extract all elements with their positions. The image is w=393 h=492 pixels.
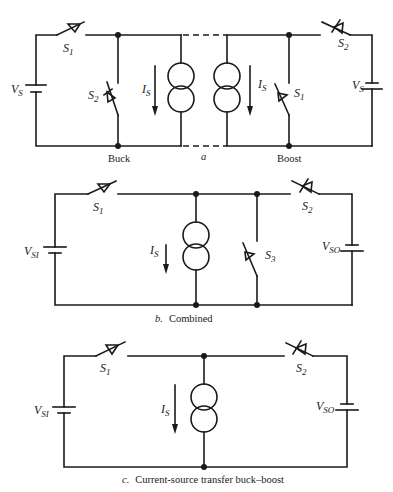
combined-input-battery-icon [44, 247, 66, 253]
boost-is-label: IS [257, 77, 267, 93]
boost-battery-icon [362, 83, 382, 89]
combined-s2-switch-icon [292, 179, 319, 194]
buckboost-s2-label: S2 [296, 361, 307, 377]
buck-left-wire-bottom [36, 92, 118, 146]
boost-current-source-icon [214, 35, 240, 146]
boost-s2-switch-icon [322, 20, 350, 35]
buckboost-node-bottom [201, 464, 207, 470]
buck-s2-label: S2 [88, 88, 99, 104]
buckboost-input-battery-icon [53, 407, 75, 413]
combined-vso-label: VSO [322, 239, 341, 255]
combined-node-bottom-right [254, 302, 260, 308]
buckboost-s1-label: S1 [100, 361, 111, 377]
buck-battery-icon [26, 85, 46, 92]
panel-c-buck-boost-circuit: VSI S1 IS S2 VSO c.Current-source transf… [34, 341, 358, 485]
panel-a-buck-circuit: VS S1 S2 IS Buck [11, 22, 194, 164]
buck-current-arrow-icon [152, 66, 158, 116]
panel-b-combined-circuit: VSI S1 IS S3 S2 VSO b.Combined [24, 179, 363, 324]
buck-s2-switch-icon [104, 82, 118, 115]
boost-s1-switch-icon [275, 84, 289, 115]
buck-is-label: IS [141, 82, 151, 98]
buckboost-vsi-label: VSI [34, 403, 50, 419]
combined-caption: b.Combined [155, 313, 213, 324]
buckboost-is-label: IS [160, 402, 170, 418]
buckboost-output-battery-icon [336, 404, 358, 410]
boost-current-arrow-icon [247, 66, 253, 116]
buckboost-vso-label: VSO [316, 399, 335, 415]
buck-s1-label: S1 [63, 41, 74, 57]
combined-s3-switch-icon [243, 243, 257, 276]
buck-current-source-icon [168, 35, 194, 146]
panel-a-caption-letter: a [201, 151, 206, 162]
panel-a-boost-circuit: IS S1 S2 VS Boost [214, 20, 382, 164]
buckboost-s1-switch-icon [96, 342, 125, 356]
combined-s2-label: S2 [302, 199, 313, 215]
boost-s2-label: S2 [338, 36, 349, 52]
combined-output-battery-icon [341, 245, 363, 251]
boost-s1-label: S1 [294, 86, 305, 102]
buckboost-caption: c.Current-source transfer buck–boost [122, 474, 284, 485]
combined-current-source-icon [183, 194, 209, 305]
buck-vs-label: VS [11, 82, 23, 98]
combined-vsi-label: VSI [24, 244, 40, 260]
combined-is-label: IS [149, 243, 159, 259]
combined-s1-switch-icon [88, 181, 116, 194]
buck-caption: Buck [108, 153, 131, 164]
buckboost-current-arrow-icon [172, 385, 178, 434]
boost-caption: Boost [277, 153, 302, 164]
circuit-diagram-figure: VS S1 S2 IS Buck a [0, 0, 393, 492]
combined-current-arrow-icon [163, 245, 169, 274]
buckboost-s2-switch-icon [286, 341, 313, 356]
combined-s1-label: S1 [93, 200, 104, 216]
combined-node-bottom-left [193, 302, 199, 308]
buck-left-wire-top [36, 35, 57, 85]
boost-node-bottom [286, 143, 292, 149]
buckboost-current-source-icon [191, 356, 217, 467]
combined-s3-label: S3 [265, 248, 276, 264]
boost-vs-label: VS [352, 78, 364, 94]
